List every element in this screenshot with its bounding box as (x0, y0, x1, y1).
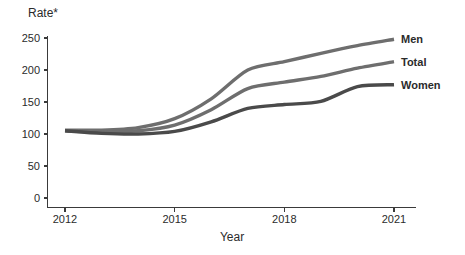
y-axis-title: Rate* (28, 6, 58, 20)
chart-figure: 050100150200250 2012201520182021 Rate* Y… (0, 0, 465, 255)
series-lines-group (65, 39, 394, 134)
y-tick-label: 100 (22, 128, 40, 140)
y-axis-tick-labels: 050100150200250 (22, 32, 40, 204)
x-tick-label: 2015 (162, 213, 186, 225)
line-chart-canvas: 050100150200250 2012201520182021 Rate* Y… (0, 0, 465, 255)
x-axis-title: Year (220, 230, 244, 244)
y-tick-label: 0 (34, 192, 40, 204)
y-tick-label: 150 (22, 96, 40, 108)
y-tick-label: 200 (22, 64, 40, 76)
series-label-women: Women (401, 79, 441, 91)
y-axis-group: 050100150200250 (22, 32, 48, 208)
x-tick-label: 2012 (53, 213, 77, 225)
series-labels-group: MenTotalWomen (401, 33, 441, 90)
x-axis-ticks (65, 208, 394, 212)
x-tick-label: 2018 (272, 213, 296, 225)
x-axis-group: 2012201520182021 (48, 208, 417, 226)
series-line-women (65, 85, 394, 134)
series-line-men (65, 39, 394, 130)
y-axis-ticks (44, 38, 48, 198)
x-axis-tick-labels: 2012201520182021 (53, 213, 406, 225)
series-label-men: Men (401, 33, 423, 45)
y-tick-label: 250 (22, 32, 40, 44)
series-line-total (65, 62, 394, 132)
series-label-total: Total (401, 56, 426, 68)
y-tick-label: 50 (28, 160, 40, 172)
x-tick-label: 2021 (382, 213, 406, 225)
